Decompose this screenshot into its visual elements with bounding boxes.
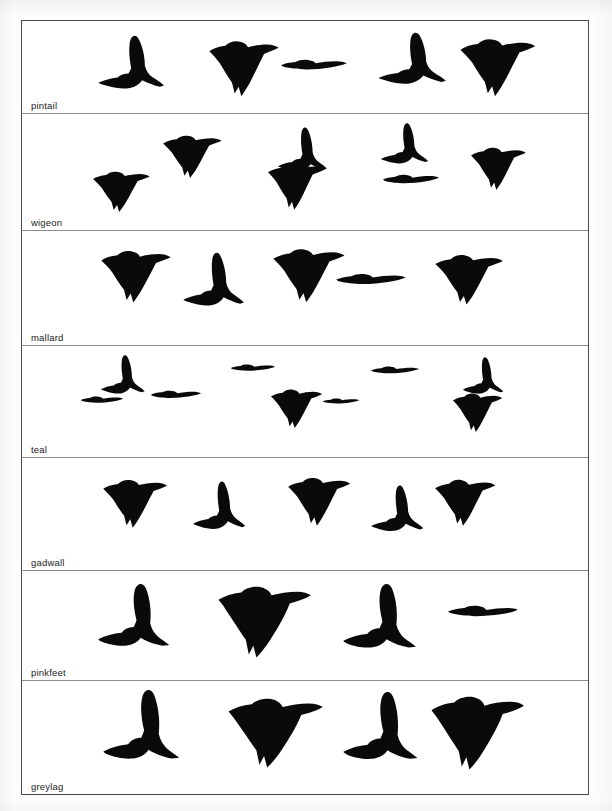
goose-silhouette bbox=[342, 583, 434, 657]
species-row-gadwall: gadwall bbox=[22, 458, 588, 571]
bird-silhouette bbox=[230, 364, 276, 386]
goose-silhouette bbox=[227, 697, 329, 769]
species-label-gadwall: gadwall bbox=[31, 558, 65, 568]
species-row-teal: teal bbox=[22, 346, 588, 458]
bird-silhouette bbox=[267, 162, 329, 212]
species-label-teal: teal bbox=[31, 445, 47, 455]
bird-silhouette bbox=[335, 273, 407, 309]
species-row-pinkfeet: pinkfeet bbox=[22, 571, 588, 681]
bird-silhouette bbox=[182, 251, 254, 309]
bird-silhouette bbox=[102, 478, 172, 530]
silhouette-chart-frame: pintailwigeonmallardtealgadwallpinkfeetg… bbox=[21, 20, 589, 795]
bird-silhouette bbox=[192, 480, 254, 532]
bird-field-mallard bbox=[22, 231, 588, 345]
species-row-mallard: mallard bbox=[22, 231, 588, 346]
goose-silhouette bbox=[97, 583, 187, 655]
bird-field-teal bbox=[22, 346, 588, 457]
species-label-pintail: pintail bbox=[31, 101, 57, 111]
bird-silhouette bbox=[434, 478, 500, 528]
bird-silhouette bbox=[377, 31, 457, 87]
bird-silhouette bbox=[100, 249, 176, 305]
bird-silhouette bbox=[287, 476, 355, 528]
bird-silhouette bbox=[97, 34, 175, 92]
bird-silhouette bbox=[162, 134, 226, 180]
bird-silhouette bbox=[462, 356, 510, 396]
bird-silhouette bbox=[322, 398, 360, 416]
bird-field-greylag bbox=[22, 681, 588, 794]
species-row-pintail: pintail bbox=[22, 21, 588, 114]
bird-silhouette bbox=[270, 388, 326, 430]
species-label-mallard: mallard bbox=[31, 333, 64, 343]
species-label-wigeon: wigeon bbox=[31, 218, 62, 228]
species-row-greylag: greylag bbox=[22, 681, 588, 794]
bird-silhouette bbox=[280, 59, 348, 93]
bird-silhouette bbox=[380, 122, 436, 166]
bird-field-pinkfeet bbox=[22, 571, 588, 680]
bird-silhouette bbox=[434, 253, 508, 307]
goose-silhouette bbox=[217, 585, 317, 659]
bird-silhouette bbox=[459, 37, 541, 99]
species-label-pinkfeet: pinkfeet bbox=[31, 668, 66, 678]
species-label-greylag: greylag bbox=[31, 782, 64, 792]
bird-silhouette bbox=[208, 39, 284, 99]
bird-silhouette bbox=[470, 146, 530, 192]
bird-silhouette bbox=[452, 392, 506, 434]
scanned-page: pintailwigeonmallardtealgadwallpinkfeetg… bbox=[0, 0, 612, 811]
bird-silhouette bbox=[382, 174, 440, 204]
bird-silhouette bbox=[370, 484, 432, 534]
bird-silhouette bbox=[92, 170, 154, 214]
goose-silhouette bbox=[447, 605, 519, 641]
bird-field-gadwall bbox=[22, 458, 588, 570]
bird-field-pintail bbox=[22, 21, 588, 113]
goose-silhouette bbox=[102, 689, 198, 769]
bird-silhouette bbox=[100, 354, 152, 396]
species-row-wigeon: wigeon bbox=[22, 114, 588, 231]
bird-field-wigeon bbox=[22, 114, 588, 230]
bird-silhouette bbox=[370, 366, 420, 390]
bird-silhouette bbox=[80, 396, 124, 418]
bird-silhouette bbox=[150, 390, 202, 416]
goose-silhouette bbox=[430, 695, 530, 771]
goose-silhouette bbox=[342, 691, 436, 769]
